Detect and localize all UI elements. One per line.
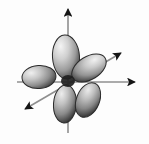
- left-lobe: [21, 64, 57, 89]
- lower-right-lobe: [71, 79, 106, 121]
- orbital-center-node: [61, 75, 75, 87]
- orbital-figure: [0, 0, 149, 144]
- orbital-diagram-canvas: [0, 0, 149, 144]
- lobes-group: [21, 34, 111, 124]
